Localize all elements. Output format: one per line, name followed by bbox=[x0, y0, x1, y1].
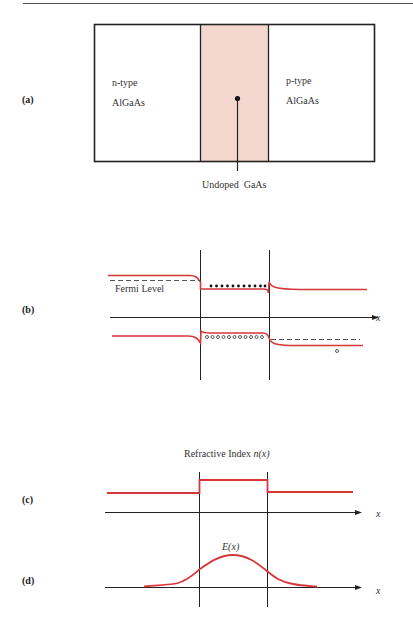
undoped-gaas-label: Undoped GaAs bbox=[202, 179, 267, 190]
field-profile-curve bbox=[144, 555, 317, 587]
band-axis-label: x bbox=[375, 312, 381, 323]
refractive-index-title: Refractive Index n(x) bbox=[184, 448, 270, 460]
index-axis-arrowhead bbox=[355, 510, 362, 515]
index-axis-label: x bbox=[375, 508, 381, 519]
field-axis-arrowhead bbox=[355, 585, 362, 590]
field-axis-label: x bbox=[375, 585, 381, 596]
panel-d-field-profile bbox=[105, 555, 362, 590]
panel-c-refractive-index bbox=[105, 472, 362, 607]
electrons bbox=[210, 285, 267, 288]
p-type-material-label: AlGaAs bbox=[286, 95, 319, 106]
n-type-label: n-type bbox=[112, 77, 138, 88]
panel-label-c: (c) bbox=[22, 494, 33, 506]
panel-label-a: (a) bbox=[22, 94, 34, 106]
holes bbox=[206, 336, 339, 353]
panel-b-band-diagram bbox=[108, 250, 379, 380]
panel-label-d: (d) bbox=[22, 575, 34, 587]
panel-label-b: (b) bbox=[22, 304, 34, 316]
heterojunction-figure: (a) n-type AlGaAs p-type AlGaAs Undoped … bbox=[0, 0, 413, 620]
n-type-material-label: AlGaAs bbox=[112, 97, 145, 108]
undoped-gaas-region bbox=[200, 24, 268, 162]
fermi-level-label: Fermi Level bbox=[115, 283, 164, 294]
valence-band-curve bbox=[112, 331, 363, 346]
field-curve-label: E(x) bbox=[221, 541, 240, 553]
p-type-label: p-type bbox=[286, 75, 312, 86]
refractive-index-curve bbox=[107, 480, 353, 493]
